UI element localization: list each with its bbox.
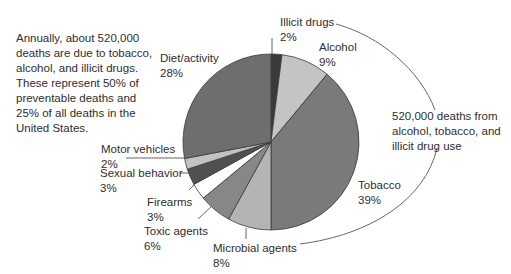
label-name: Diet/activity — [160, 51, 219, 66]
label-diet-activity: Diet/activity 28% — [160, 51, 219, 81]
label-firearms: Firearms 3% — [147, 195, 192, 225]
label-microbial-agents: Microbial agents 8% — [213, 241, 297, 271]
label-name: Tobacco — [358, 178, 401, 193]
label-pct: 28% — [160, 66, 219, 81]
label-pct: 2% — [101, 157, 175, 172]
label-pct: 39% — [358, 193, 401, 208]
label-pct: 9% — [319, 55, 357, 70]
label-pct: 3% — [147, 210, 192, 225]
label-name: Firearms — [147, 195, 192, 210]
label-alcohol: Alcohol 9% — [319, 40, 357, 70]
label-name: Alcohol — [319, 40, 357, 55]
label-toxic-agents: Toxic agents 6% — [144, 224, 208, 254]
bracket-annotation: 520,000 deaths from alcohol, tobacco, an… — [392, 109, 501, 154]
label-name: Illicit drugs — [280, 15, 334, 30]
label-tobacco: Tobacco 39% — [358, 178, 401, 208]
leader-toxic-agents — [198, 206, 212, 219]
summary-annotation: Annually, about 520,000 deaths are due t… — [16, 31, 152, 136]
label-name: Microbial agents — [213, 241, 297, 256]
label-pct: 6% — [144, 239, 208, 254]
label-name: Motor vehicles — [101, 142, 175, 157]
label-name: Toxic agents — [144, 224, 208, 239]
label-pct: 8% — [213, 256, 297, 271]
label-motor-vehicles: Motor vehicles 2% — [101, 142, 175, 172]
label-pct: 3% — [100, 181, 182, 196]
